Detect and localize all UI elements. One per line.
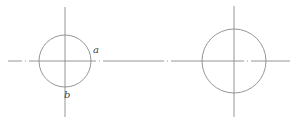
right-circle-group <box>202 6 266 117</box>
left-circle-group: a b <box>39 7 99 117</box>
label-b: b <box>64 89 70 100</box>
two-circles-diagram: a b <box>0 0 293 124</box>
label-a: a <box>93 44 99 55</box>
